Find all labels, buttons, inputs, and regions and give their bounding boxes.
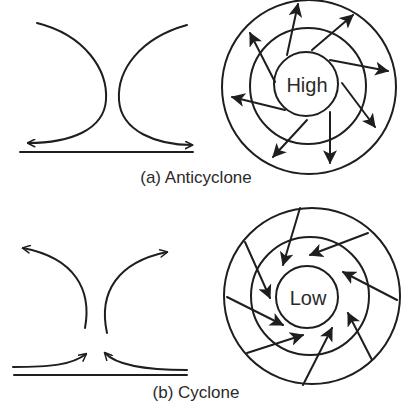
anticyclone-side-view: [20, 23, 193, 152]
inflow-arrow-icon: [245, 242, 270, 298]
descending-flow-right-arrow-icon: [119, 25, 192, 145]
inflow-arrow-icon: [303, 328, 332, 385]
inflow-arrow-icon: [247, 335, 303, 353]
inflow-arrow-icon: [310, 233, 368, 255]
low-pressure-label: Low: [290, 287, 327, 310]
inflow-arrow-icon: [283, 208, 300, 265]
inflow-arrow-icon: [227, 297, 283, 325]
outflow-arrow-icon: [273, 120, 307, 157]
converging-flow-left-arrow-icon: [13, 354, 86, 367]
anticyclone-caption: (a) Anticyclone: [140, 168, 252, 188]
cyclone-side-view: [13, 248, 187, 375]
inflow-arrow-icon: [343, 272, 397, 300]
diagram-stage: High Low (a) Anticyclone (b) Cyclone: [0, 0, 411, 412]
descending-flow-left-arrow-icon: [28, 23, 106, 143]
rising-flow-left-arrow-icon: [23, 248, 86, 328]
high-pressure-label: High: [286, 74, 327, 97]
outflow-arrow-icon: [342, 83, 375, 127]
converging-flow-right-arrow-icon: [105, 353, 187, 370]
outflow-arrow-icon: [330, 60, 388, 71]
cyclone-caption: (b) Cyclone: [153, 383, 240, 403]
outflow-arrow-icon: [312, 15, 353, 50]
rising-flow-right-arrow-icon: [105, 252, 167, 333]
